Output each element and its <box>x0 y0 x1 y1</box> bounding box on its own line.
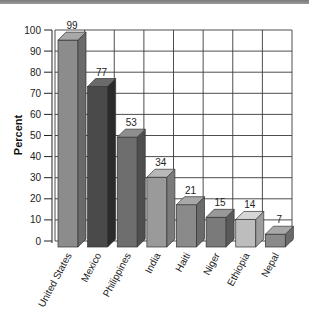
bar: 53 <box>117 117 145 247</box>
bar: 34 <box>147 157 175 247</box>
value-label: 34 <box>155 157 167 168</box>
bar: 77 <box>88 67 116 247</box>
x-axis-labels: United StatesMexicoPhilippinesIndiaHaiti… <box>36 250 281 309</box>
bar: 99 <box>58 20 86 247</box>
bars: 997753342115147 <box>58 20 293 247</box>
value-label: 7 <box>277 214 283 225</box>
y-tick-label: 70 <box>30 88 42 99</box>
category-label: Nepal <box>259 251 281 279</box>
y-tick-label: 40 <box>30 151 42 162</box>
y-tick-label: 10 <box>30 214 42 225</box>
category-label: Niger <box>201 250 222 277</box>
category-label: Mexico <box>79 250 104 284</box>
category-label: Philippines <box>101 251 133 299</box>
y-tick-label: 50 <box>30 130 42 141</box>
value-label: 21 <box>185 185 197 196</box>
y-tick-label: 100 <box>24 25 41 36</box>
bar: 15 <box>206 197 234 247</box>
bar: 7 <box>265 214 293 247</box>
value-label: 53 <box>126 117 138 128</box>
value-label: 14 <box>244 199 256 210</box>
bar-chart: 0102030405060708090100 997753342115147 U… <box>0 0 309 319</box>
category-label: Haiti <box>173 251 192 274</box>
y-axis: 0102030405060708090100 <box>24 25 52 247</box>
category-label: Ethiopia <box>225 250 252 287</box>
y-tick-label: 0 <box>35 236 41 247</box>
category-label: United States <box>36 251 74 309</box>
y-axis-label: Percent <box>12 114 24 155</box>
y-tick-label: 20 <box>30 193 42 204</box>
y-tick-label: 30 <box>30 172 42 183</box>
bar: 21 <box>177 185 205 247</box>
y-tick-label: 80 <box>30 67 42 78</box>
value-label: 15 <box>215 197 227 208</box>
value-label: 99 <box>66 20 78 31</box>
bar: 14 <box>236 199 264 247</box>
y-tick-label: 60 <box>30 109 42 120</box>
category-label: India <box>143 250 163 275</box>
y-tick-label: 90 <box>30 46 42 57</box>
value-label: 77 <box>96 67 108 78</box>
